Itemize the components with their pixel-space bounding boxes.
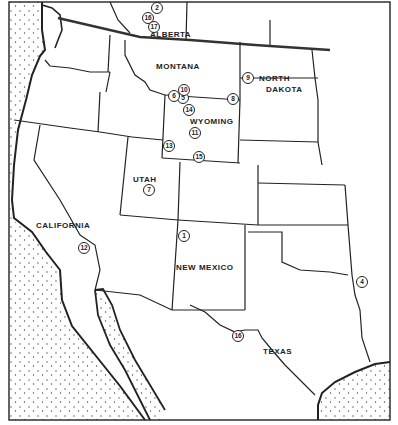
site-marker: 1	[178, 230, 190, 242]
label-montana: MONTANA	[156, 62, 200, 71]
label-california: CALIFORNIA	[36, 221, 90, 230]
site-marker: 16	[232, 330, 244, 342]
site-marker: 15	[193, 151, 205, 163]
site-marker: 14	[183, 104, 195, 116]
label-dakota: DAKOTA	[266, 85, 303, 94]
site-marker: 11	[189, 127, 201, 139]
site-marker: 10	[178, 84, 190, 96]
site-marker: 17	[148, 21, 160, 33]
site-marker: 2	[151, 2, 163, 14]
site-marker: 12	[78, 242, 90, 254]
site-marker: 13	[163, 140, 175, 152]
site-marker: 7	[143, 184, 155, 196]
label-utah: UTAH	[133, 175, 157, 184]
label-wyoming: WYOMING	[190, 117, 234, 126]
label-north: NORTH	[259, 74, 290, 83]
label-new-mexico: NEW MEXICO	[176, 263, 233, 272]
site-marker: 9	[242, 72, 254, 84]
label-texas: TEXAS	[263, 347, 292, 356]
site-marker: 4	[356, 276, 368, 288]
site-marker: 8	[227, 93, 239, 105]
